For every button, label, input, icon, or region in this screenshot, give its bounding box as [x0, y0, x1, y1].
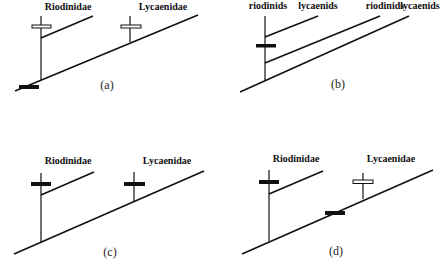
taxon-label: Lycaenidae	[139, 1, 188, 12]
panel-caption: (c)	[103, 245, 116, 259]
cladogram-figure: Riodinidae Lycaenidae (a) riodinids lyca…	[0, 0, 448, 268]
solid-character-bar	[19, 85, 39, 89]
solid-character-bar	[31, 182, 51, 186]
open-character-bar	[32, 25, 51, 28]
panel-b: riodinids lycaenids riodinids lycaenids …	[240, 0, 440, 92]
panel-caption: (d)	[329, 244, 343, 258]
taxon-label: Riodinidae	[45, 1, 92, 12]
taxon-label: lycaenids	[400, 0, 440, 11]
solid-character-bar	[124, 182, 145, 186]
solid-character-bar	[259, 180, 279, 184]
open-character-bar	[353, 180, 373, 184]
taxon-label: Riodinidae	[45, 155, 92, 166]
open-character-bar	[121, 25, 141, 28]
taxon-label: riodinids	[366, 0, 404, 11]
panel-caption: (b)	[331, 77, 345, 91]
taxon-label: Riodinidae	[273, 153, 320, 164]
taxon-label: lycaenids	[298, 0, 338, 11]
panel-caption: (a)	[100, 78, 113, 92]
taxon-label: Lycaenidae	[143, 155, 192, 166]
branch-2	[265, 16, 380, 63]
solid-character-bar	[256, 44, 276, 48]
panel-d: Riodinidae Lycaenidae (d)	[242, 153, 433, 258]
panel-c: Riodinidae Lycaenidae (c)	[14, 155, 204, 259]
taxon-label: Lycaenidae	[367, 153, 416, 164]
branch-1	[265, 16, 318, 37]
solid-character-bar	[325, 211, 345, 215]
taxon-label: riodinids	[249, 0, 287, 11]
panel-a: Riodinidae Lycaenidae (a)	[15, 1, 198, 92]
